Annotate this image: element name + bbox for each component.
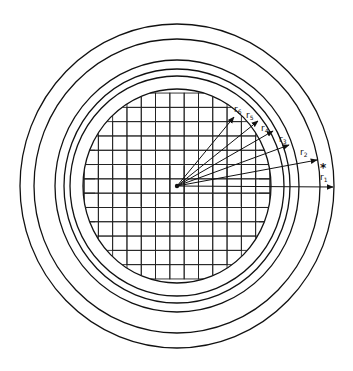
- grid-cell: [113, 236, 127, 250]
- grid-cell: [256, 193, 270, 207]
- grid-cell: [170, 222, 184, 236]
- grid-cell: [127, 207, 141, 221]
- grid-cell: [113, 207, 127, 221]
- grid-cell: [156, 250, 170, 264]
- radius-label-r6: r6: [234, 104, 242, 115]
- grid-cell: [256, 165, 270, 179]
- grid-cell: [184, 107, 198, 121]
- grid-cell: [170, 193, 184, 207]
- grid-cell: [156, 136, 170, 150]
- grid-cell: [170, 93, 184, 107]
- grid-cell: [98, 207, 112, 221]
- grid-cell: [198, 136, 212, 150]
- grid-cell: [198, 193, 212, 207]
- grid-cell: [127, 165, 141, 179]
- radius-arrow-r5: [177, 121, 258, 186]
- grid-cell: [141, 165, 155, 179]
- grid-cell: [198, 207, 212, 221]
- radius-arrow-r4: [177, 131, 273, 186]
- grid-cell: [127, 222, 141, 236]
- grid-cell: [141, 193, 155, 207]
- grid-cell: [141, 136, 155, 150]
- grid-cell: [184, 136, 198, 150]
- grid-cell: [170, 236, 184, 250]
- grid-cell: [241, 193, 255, 207]
- grid-cell: [127, 107, 141, 121]
- radius-label-r4: r4: [261, 123, 269, 134]
- grid-cell: [113, 136, 127, 150]
- grid-cell: [156, 93, 170, 107]
- grid-cell: [184, 193, 198, 207]
- grid-cell: [141, 150, 155, 164]
- grid-cell: [98, 179, 112, 193]
- grid-cell: [213, 236, 227, 250]
- grid-cell: [170, 107, 184, 121]
- grid-cell: [227, 150, 241, 164]
- grid-cell: [198, 250, 212, 264]
- grid-cell: [184, 250, 198, 264]
- grid-cell: [170, 150, 184, 164]
- grid-cell: [141, 107, 155, 121]
- grid-cell: [213, 193, 227, 207]
- grid-cell: [141, 207, 155, 221]
- grid-cell: [170, 265, 184, 279]
- grid-cell: [113, 179, 127, 193]
- grid-cell: [141, 236, 155, 250]
- grid-cell: [184, 236, 198, 250]
- grid-cell: [84, 136, 98, 150]
- grid-cell: [127, 122, 141, 136]
- grid-cell: [98, 222, 112, 236]
- grid-cell: [98, 193, 112, 207]
- grid-cell: [184, 222, 198, 236]
- grid-cell: [184, 265, 198, 279]
- grid-cell: [241, 150, 255, 164]
- grid-cell: [113, 193, 127, 207]
- grid-cell: [127, 179, 141, 193]
- grid-cell: [113, 122, 127, 136]
- grid-cell: [113, 150, 127, 164]
- grid-cell: [84, 165, 98, 179]
- grid-cell: [227, 222, 241, 236]
- grid-cell: [227, 236, 241, 250]
- grid-cell: [170, 122, 184, 136]
- grid-cell: [141, 179, 155, 193]
- grid-cell: [98, 150, 112, 164]
- grid-cell: [184, 165, 198, 179]
- grid-cell: [141, 122, 155, 136]
- grid-cell: [213, 107, 227, 121]
- grid-cell: [156, 193, 170, 207]
- grid-cell: [256, 222, 270, 236]
- grid-cell: [170, 136, 184, 150]
- grid-cell: [127, 136, 141, 150]
- grid-cell: [198, 236, 212, 250]
- grid-cell: [170, 165, 184, 179]
- grid-cell: [227, 207, 241, 221]
- radius-arrow-r1: [177, 186, 333, 187]
- grid-cell: [241, 222, 255, 236]
- grid-cell: [156, 236, 170, 250]
- grid-cell: [213, 207, 227, 221]
- grid-cell: [141, 222, 155, 236]
- grid-cell: [84, 222, 98, 236]
- grid-cell: [256, 136, 270, 150]
- grid-cell: [84, 179, 98, 193]
- grid-cell: [213, 222, 227, 236]
- grid-cell: [127, 250, 141, 264]
- grid-cell: [170, 207, 184, 221]
- radius-label-r3: r3: [279, 134, 287, 145]
- grid-cell: [156, 107, 170, 121]
- grid-cell: [227, 193, 241, 207]
- grid-cell: [170, 250, 184, 264]
- grid-cell: [156, 165, 170, 179]
- grid-cell: [156, 222, 170, 236]
- grid-cell: [156, 265, 170, 279]
- grid-cell: [213, 250, 227, 264]
- grid-cell: [184, 207, 198, 221]
- asterisk-marker: *: [320, 161, 327, 175]
- grid-cell: [98, 136, 112, 150]
- grid-cell: [113, 165, 127, 179]
- grid-cell: [127, 236, 141, 250]
- grid-cell: [227, 122, 241, 136]
- grid-cell: [213, 150, 227, 164]
- grid-cell: [198, 222, 212, 236]
